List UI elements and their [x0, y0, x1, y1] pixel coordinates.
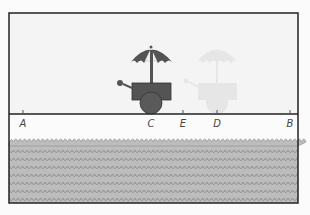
point-label-e: E	[180, 118, 186, 129]
scene-svg	[0, 0, 310, 215]
water	[9, 142, 298, 203]
point-label-a: A	[20, 118, 27, 129]
point-label-d: D	[213, 118, 221, 129]
diagram-scene: A C E D B	[0, 0, 310, 215]
point-label-b: B	[287, 118, 294, 129]
point-label-c: C	[148, 118, 155, 129]
